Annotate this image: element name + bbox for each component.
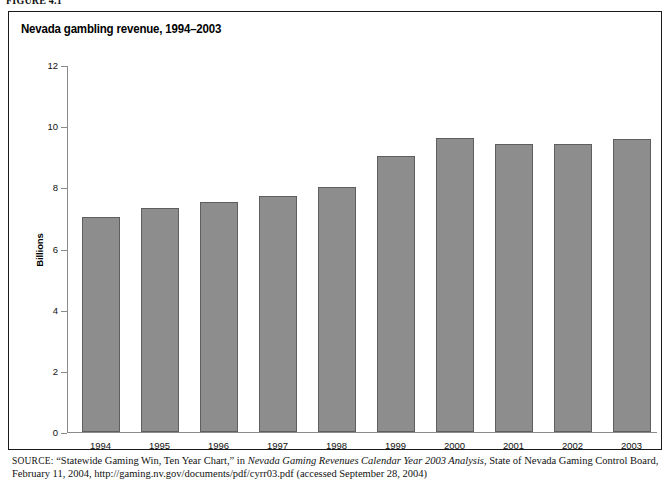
figure-number-label: FIGURE 4.1 [6,0,62,4]
y-axis-tick-mark [61,127,67,128]
bar-1996 [200,202,238,431]
bar-1995 [141,208,179,431]
bar-1997 [259,196,297,431]
y-axis-tick-mark [61,66,67,67]
x-axis-label-1997: 1997 [248,440,308,451]
y-axis-tick-mark [61,188,67,189]
y-axis-tick-label: 2 [53,366,58,377]
x-axis-label-2002: 2002 [543,440,603,451]
y-axis-tick-label: 4 [53,305,58,316]
y-axis-tick-label: 12 [47,60,58,71]
source-kicker: SOURCE: [12,456,54,466]
y-axis-title: Billions [34,233,45,267]
bar-2003 [613,139,651,431]
y-axis-tick-label: 10 [47,121,58,132]
x-axis-label-2000: 2000 [425,440,485,451]
chart-title: Nevada gambling revenue, 1994–2003 [21,22,221,36]
bar-1998 [318,187,356,432]
y-axis-tick-label: 0 [53,427,58,438]
bar-2000 [436,138,474,432]
x-axis-label-1995: 1995 [130,440,190,451]
y-axis-line [67,66,68,433]
source-text-part1: “Statewide Gaming Win, Ten Year Chart,” … [54,455,248,466]
plot-area: Billions 024681012 199419951996199719981… [67,66,657,433]
y-axis-tick-mark [61,311,67,312]
bar-1999 [377,156,415,431]
y-axis-tick-label: 8 [53,182,58,193]
y-axis-tick-mark [61,372,67,373]
x-axis-label-1999: 1999 [366,440,426,451]
bar-1994 [82,217,120,431]
x-axis-label-1996: 1996 [189,440,249,451]
source-note: SOURCE: “Statewide Gaming Win, Ten Year … [12,455,662,480]
figure-box: Nevada gambling revenue, 1994–2003 Billi… [8,11,662,450]
y-axis-tick-mark [61,433,67,434]
bar-2002 [554,144,592,431]
y-axis-tick-label: 6 [53,244,58,255]
x-axis-label-1994: 1994 [71,440,131,451]
y-axis-tick-mark [61,250,67,251]
x-axis-label-2001: 2001 [484,440,544,451]
x-axis-line [67,432,657,434]
bar-2001 [495,144,533,431]
x-axis-label-2003: 2003 [602,440,662,451]
source-publication-title: Nevada Gaming Revenues Calendar Year 200… [248,455,487,466]
x-axis-label-1998: 1998 [307,440,367,451]
